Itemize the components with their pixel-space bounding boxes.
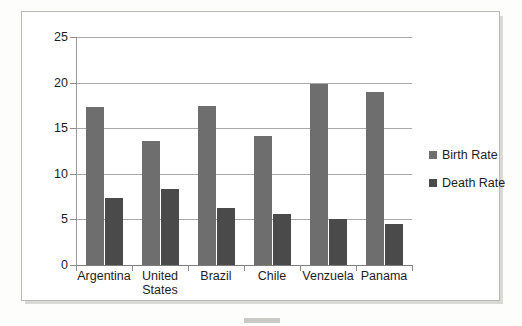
page-footer-mark [244,318,280,323]
bar-death-rate[interactable] [105,198,123,265]
scanned-page-background: 25 20 15 10 5 0 ArgentinaUnited StatesBr… [0,0,522,326]
bar-death-rate[interactable] [329,219,347,266]
legend-swatch-icon [429,151,437,159]
bar-death-rate[interactable] [161,189,179,265]
bar-birth-rate[interactable] [198,106,216,265]
bar-death-rate[interactable] [217,208,235,265]
legend-label: Birth Rate [442,148,498,162]
bar-birth-rate[interactable] [366,92,384,265]
bar-group [356,37,412,265]
bar-group [76,37,132,265]
chart-frame: 25 20 15 10 5 0 ArgentinaUnited StatesBr… [21,11,500,301]
bar-birth-rate[interactable] [86,107,104,265]
y-tick-label-25: 25 [38,31,68,44]
page-shadow-bottom [25,301,503,304]
chart-legend: Birth RateDeath Rate [429,148,505,204]
y-tick-label-0: 0 [38,259,68,272]
bar-groups [76,37,413,265]
bar-birth-rate[interactable] [254,136,272,266]
bar-death-rate[interactable] [385,224,403,265]
y-tick-label-10: 10 [38,168,68,181]
legend-item[interactable]: Death Rate [429,176,505,190]
bar-birth-rate[interactable] [142,141,160,265]
bar-death-rate[interactable] [273,214,291,265]
y-axis-tick-labels: 25 20 15 10 5 0 [36,37,68,265]
bar-birth-rate[interactable] [310,84,328,265]
bar-group [244,37,300,265]
y-tick-label-20: 20 [38,77,68,90]
legend-item[interactable]: Birth Rate [429,148,505,162]
legend-swatch-icon [429,179,437,187]
y-tick-label-5: 5 [38,213,68,226]
y-tick-label-15: 15 [38,122,68,135]
bar-group [132,37,188,265]
x-category-label: Panama [350,269,418,283]
legend-label: Death Rate [442,176,505,190]
bar-group [188,37,244,265]
bar-group [300,37,356,265]
